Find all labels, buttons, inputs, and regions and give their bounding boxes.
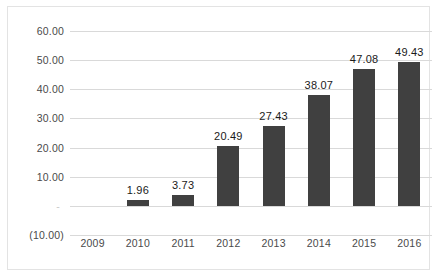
bar[interactable] — [308, 95, 330, 206]
bar-value-label: 3.73 — [172, 179, 194, 191]
bar-series: 1.963.7320.4927.4338.0747.0849.43 — [70, 31, 432, 235]
bar-value-label: 27.43 — [259, 110, 288, 122]
plot-area: 1.963.7320.4927.4338.0747.0849.43 — [70, 31, 432, 235]
y-axis-tick-label: 50.00 — [37, 54, 64, 66]
bar-value-label: 38.07 — [305, 79, 334, 91]
bar[interactable] — [172, 195, 194, 206]
x-axis-tick-label: 2016 — [397, 237, 421, 249]
bar-value-label: 1.96 — [127, 184, 149, 196]
y-axis: 60.0050.0040.0030.0020.0010.00-(10.00) — [8, 31, 64, 235]
x-axis: 20092010201120122013201420152016 — [70, 237, 432, 253]
bar-group[interactable]: 49.43 — [387, 31, 432, 235]
y-axis-tick-label: 30.00 — [37, 112, 64, 124]
x-axis-tick-label: 2009 — [81, 237, 105, 249]
y-axis-tick-label: 60.00 — [37, 25, 64, 37]
bar-group[interactable]: 20.49 — [206, 31, 251, 235]
bar-value-label: 20.49 — [214, 130, 243, 142]
bar[interactable] — [217, 146, 239, 206]
bar-value-label: 47.08 — [350, 53, 379, 65]
gridline — [70, 235, 432, 236]
chart-frame: 60.0050.0040.0030.0020.0010.00-(10.00) 1… — [7, 6, 430, 270]
x-axis-tick-label: 2014 — [307, 237, 331, 249]
x-axis-tick-label: 2015 — [352, 237, 376, 249]
bar-group[interactable]: 38.07 — [296, 31, 341, 235]
x-axis-tick-label: 2012 — [216, 237, 240, 249]
bar-group[interactable]: 27.43 — [251, 31, 296, 235]
bar-group[interactable] — [70, 31, 115, 235]
y-axis-tick-label: 10.00 — [37, 171, 64, 183]
y-axis-tick-label: 20.00 — [37, 142, 64, 154]
x-axis-tick-label: 2010 — [126, 237, 150, 249]
bar-group[interactable]: 1.96 — [115, 31, 160, 235]
y-axis-tick-label: (10.00) — [29, 229, 64, 241]
y-axis-tick-label: - — [56, 200, 64, 212]
bar-group[interactable]: 3.73 — [161, 31, 206, 235]
bar[interactable] — [127, 200, 149, 206]
bar[interactable] — [263, 126, 285, 206]
bar[interactable] — [398, 62, 420, 206]
bar[interactable] — [353, 69, 375, 206]
x-axis-tick-label: 2011 — [171, 237, 194, 249]
bar-group[interactable]: 47.08 — [342, 31, 387, 235]
y-axis-tick-label: 40.00 — [37, 83, 64, 95]
bar-value-label: 49.43 — [395, 46, 424, 58]
x-axis-tick-label: 2013 — [262, 237, 286, 249]
